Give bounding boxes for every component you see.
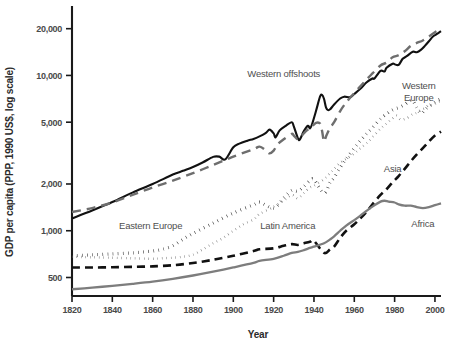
series-label-latin-america: Latin America bbox=[260, 220, 316, 231]
y-tick-label: 20,000 bbox=[36, 24, 62, 34]
y-tick-label: 5,000 bbox=[41, 118, 62, 128]
x-tick-label: 1940 bbox=[305, 305, 324, 315]
gdp-per-capita-chart: 5001,0002,0005,00010,00020,000 182018401… bbox=[0, 0, 451, 342]
y-axis-title: GDP per capita (PPP, 1990 US$, log scale… bbox=[4, 67, 15, 257]
series-label-eastern-europe: Eastern Europe bbox=[119, 220, 182, 231]
series-label-western-europe: WesternEurope bbox=[402, 80, 436, 103]
y-tick-label: 10,000 bbox=[36, 71, 62, 81]
series-label-africa: Africa bbox=[411, 218, 435, 229]
series-label-western-offshoots: Western offshoots bbox=[247, 68, 320, 79]
x-tick-label: 1860 bbox=[143, 305, 162, 315]
chart-canvas: 5001,0002,0005,00010,00020,000 182018401… bbox=[0, 0, 451, 342]
x-tick-label: 1820 bbox=[63, 305, 82, 315]
y-tick-label: 1,000 bbox=[41, 226, 62, 236]
series-label-asia: Asia bbox=[384, 163, 403, 174]
x-tick-label: 1900 bbox=[224, 305, 243, 315]
x-axis-title: Year bbox=[248, 329, 269, 340]
x-tick-label: 1980 bbox=[385, 305, 404, 315]
x-tick-label: 2000 bbox=[426, 305, 445, 315]
x-tick-label: 1880 bbox=[184, 305, 203, 315]
y-tick-label: 2,000 bbox=[41, 179, 62, 189]
x-tick-label: 1920 bbox=[264, 305, 283, 315]
x-tick-label: 1960 bbox=[345, 305, 364, 315]
y-tick-label: 500 bbox=[48, 273, 62, 283]
x-tick-label: 1840 bbox=[103, 305, 122, 315]
